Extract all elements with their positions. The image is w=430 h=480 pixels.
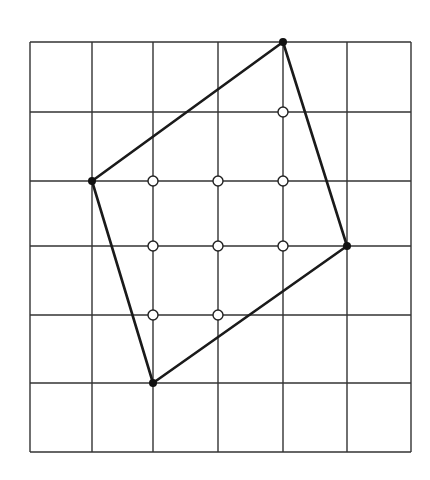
interior-point-open-circle [278, 107, 288, 117]
vertex-bottom-filled-dot [149, 379, 157, 387]
interior-point-open-circle [213, 241, 223, 251]
interior-point-open-circle [148, 310, 158, 320]
vertex-right-filled-dot [343, 242, 351, 250]
interior-point-open-circle [278, 176, 288, 186]
vertex-left-filled-dot [88, 177, 96, 185]
interior-point-open-circle [148, 241, 158, 251]
interior-point-open-circle [213, 176, 223, 186]
vertex-top-filled-dot [279, 38, 287, 46]
interior-point-open-circle [278, 241, 288, 251]
lattice-diagram [0, 0, 430, 480]
square-polygon [92, 42, 347, 383]
square-outline [92, 42, 347, 383]
interior-point-open-circle [213, 310, 223, 320]
interior-point-open-circle [148, 176, 158, 186]
